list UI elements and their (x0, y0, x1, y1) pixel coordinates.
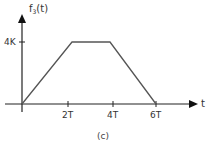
x-axis-label: t (201, 98, 205, 109)
x-tick-label-4t: 4T (107, 110, 119, 120)
figure-caption: (c) (97, 131, 109, 141)
y-axis-arrow-icon (18, 14, 26, 23)
x-tick-label-2t: 2T (62, 110, 74, 120)
f3-curve (22, 42, 156, 104)
y-axis-label: f3(t) (29, 3, 48, 15)
y-tick-label-4k: 4K (4, 37, 17, 47)
x-axis-arrow-icon (189, 100, 198, 108)
trapezoid-chart: 4K 2T 4T 6T f3(t) t (c) (0, 0, 208, 143)
x-tick-label-6t: 6T (150, 110, 162, 120)
